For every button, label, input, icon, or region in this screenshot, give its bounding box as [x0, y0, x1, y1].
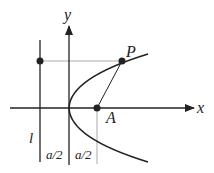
point-a-label: A — [105, 109, 116, 126]
point-p-label: P — [125, 43, 136, 60]
parabola-diagram: y x P A l a/2 a/2 — [0, 0, 214, 173]
distance-left-label: a/2 — [46, 147, 63, 162]
point-on-directrix — [37, 58, 44, 65]
x-axis-label: x — [196, 99, 204, 116]
distance-right-label: a/2 — [75, 147, 92, 162]
point-a — [94, 105, 101, 112]
point-p — [119, 58, 126, 65]
directrix-label: l — [29, 130, 33, 146]
y-axis-label: y — [62, 6, 72, 24]
